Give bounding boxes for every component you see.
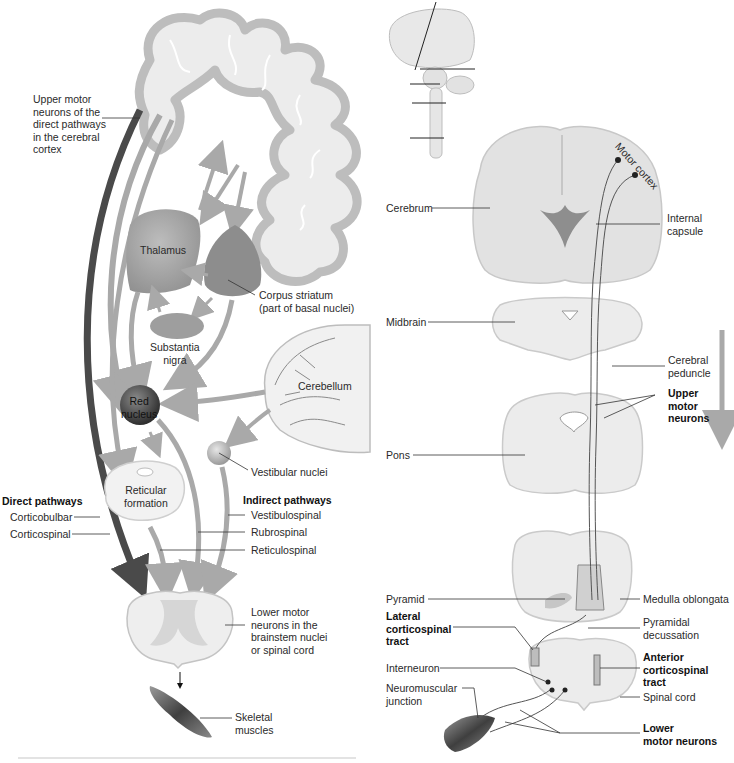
label-vestibulospinal: Vestibulospinal xyxy=(251,509,321,522)
lateral-tract-leader-2 xyxy=(515,627,533,650)
pons-section xyxy=(503,393,643,493)
skeletal-muscle-shape xyxy=(150,686,212,738)
spinal-cord-section-right xyxy=(529,638,636,710)
label-vestibular-nuclei: Vestibular nuclei xyxy=(251,466,327,479)
medulla-section xyxy=(512,531,631,622)
label-cerebral-peduncle: Cerebral peduncle xyxy=(668,354,711,379)
lateral-tract-box xyxy=(531,648,539,666)
label-internal-capsule: Internal capsule xyxy=(667,212,703,237)
lmn-dot-1 xyxy=(550,688,555,693)
label-pons: Pons xyxy=(386,449,410,462)
cerebellum-to-vestibular-arrow xyxy=(236,410,270,438)
label-direct-pathways: Direct pathways xyxy=(2,495,83,508)
red-nucleus-to-reticular-arrow xyxy=(150,432,156,447)
label-interneuron: Interneuron xyxy=(386,662,440,675)
striatum-to-red-nucleus-arrow xyxy=(180,300,232,380)
substantia-nigra-shape xyxy=(150,313,204,339)
label-spinal-cord: Spinal cord xyxy=(643,691,696,704)
label-medulla-oblongata: Medulla oblongata xyxy=(643,593,729,606)
label-anterior-corticospinal-tract: Anterior corticospinal tract xyxy=(643,651,734,689)
diagram-canvas xyxy=(0,0,734,763)
thalamus-red-nucleus-arrow xyxy=(131,292,138,385)
label-reticulospinal: Reticulospinal xyxy=(251,544,316,557)
label-neuromuscular-junction: Neuromuscular junction xyxy=(386,682,457,707)
cortex-to-striatum-arrow xyxy=(235,172,245,222)
striatum-to-nigra-arrow xyxy=(198,298,212,312)
pyramid-tract-tube xyxy=(576,565,604,610)
reticulospinal-arrow xyxy=(150,527,166,583)
label-lower-motor-neurons-right: Lower motor neurons xyxy=(643,722,717,747)
label-corticobulbar: Corticobulbar xyxy=(10,511,72,524)
reticular-canal xyxy=(137,468,153,476)
label-lateral-corticospinal-tract: Lateral corticospinal tract xyxy=(386,610,451,648)
label-reticular-formation: Reticular formation xyxy=(124,484,168,509)
label-substantia-nigra: Substantia nigra xyxy=(150,341,200,366)
midbrain-section xyxy=(493,298,642,361)
muscle-right-shape xyxy=(444,715,495,752)
cerebrum-section xyxy=(473,126,662,283)
nigra-to-thalamus-arrow xyxy=(155,296,160,312)
label-pyramidal-decussation: Pyramidal decussation xyxy=(643,616,699,641)
vestibulospinal-arrow xyxy=(212,467,227,585)
label-corticospinal: Corticospinal xyxy=(10,528,71,541)
cerebellum-to-red-nucleus-arrow xyxy=(178,392,265,403)
label-rubrospinal: Rubrospinal xyxy=(251,526,307,539)
label-upper-motor-neurons-right: Upper motor neurons xyxy=(668,387,709,425)
anterior-tract-box xyxy=(594,655,600,685)
label-upper-motor-neurons-direct: Upper motor neurons of the direct pathwa… xyxy=(33,93,106,156)
label-lower-motor-neurons-left: Lower motor neurons in the brainstem nuc… xyxy=(251,606,327,656)
umn-cell-body-1 xyxy=(615,157,621,163)
nmj-leader-2 xyxy=(474,688,478,718)
label-cerebellum: Cerebellum xyxy=(298,380,352,393)
label-thalamus: Thalamus xyxy=(140,244,186,257)
lmn-dot-2 xyxy=(563,688,568,693)
label-pyramid: Pyramid xyxy=(386,593,425,606)
label-midbrain: Midbrain xyxy=(386,316,426,329)
lmn-right-leader-3 xyxy=(505,722,560,733)
label-cerebrum: Cerebrum xyxy=(386,202,433,215)
inset-brain-illustration xyxy=(389,2,475,158)
label-skeletal-muscles: Skeletal muscles xyxy=(235,711,274,736)
spinal-cord-section-left xyxy=(127,591,233,668)
label-corpus-striatum: Corpus striatum (part of basal nuclei) xyxy=(259,289,354,314)
lmn-axon-1 xyxy=(480,690,550,718)
label-indirect-pathways: Indirect pathways xyxy=(243,494,332,507)
label-red-nucleus: Red nucleus xyxy=(121,395,157,420)
lmn-right-leader-2 xyxy=(520,710,560,733)
